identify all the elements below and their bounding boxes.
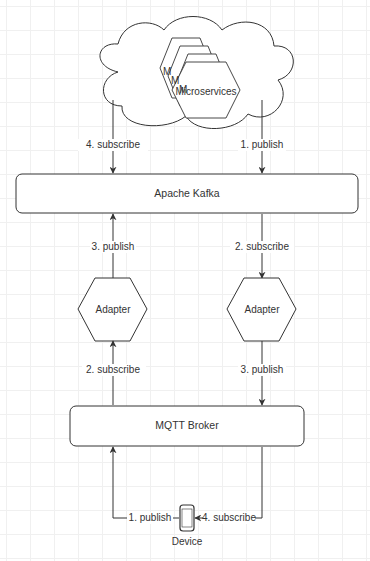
microservices-cloud[interactable]: M M M Microservices (100, 17, 293, 129)
mqtt-broker-node[interactable]: MQTT Broker (70, 406, 304, 446)
edge-label-4-subscribe-top: 4. subscribe (86, 139, 140, 150)
apache-kafka-node[interactable]: Apache Kafka (16, 174, 358, 213)
edge-label-2-subscribe-upper: 2. subscribe (235, 241, 289, 252)
edge-label-1-publish-top: 1. publish (241, 139, 284, 150)
mqtt-broker-label: MQTT Broker (155, 419, 219, 431)
edge-mqtt-to-device[interactable] (195, 447, 262, 518)
edge-label-4-subscribe-bottom: 4. subscribe (202, 512, 256, 523)
device-node[interactable]: Device (172, 505, 203, 547)
edge-label-1-publish-bottom: 1. publish (129, 512, 172, 523)
adapter-left-node[interactable]: Adapter (78, 278, 147, 341)
edge-label-2-subscribe-lower: 2. subscribe (86, 364, 140, 375)
apache-kafka-label: Apache Kafka (154, 187, 220, 199)
edge-label-3-publish-upper: 3. publish (92, 241, 135, 252)
device-label: Device (172, 536, 203, 547)
edge-label-3-publish-lower: 3. publish (241, 364, 284, 375)
edge-device-to-mqtt[interactable] (113, 447, 179, 518)
adapter-right-label: Adapter (244, 304, 280, 315)
microservices-label: Microservices (175, 86, 236, 97)
adapter-left-label: Adapter (95, 304, 131, 315)
smartphone-icon (180, 505, 194, 531)
architecture-diagram: M M M Microservices 4. subscribe 1. publ… (0, 0, 370, 561)
adapter-right-node[interactable]: Adapter (227, 278, 296, 341)
